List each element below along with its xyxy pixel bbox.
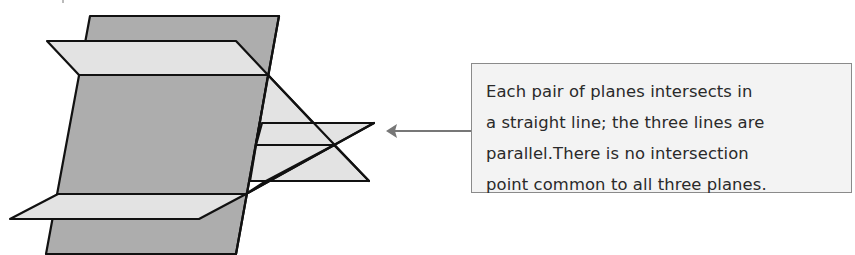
callout-line: parallel.There is no intersection (486, 138, 841, 169)
upper-horizontal-plane (47, 41, 268, 75)
callout-line: Each pair of planes intersects in (486, 76, 841, 107)
callout-line: a straight line; the three lines are (486, 107, 841, 138)
callout-box: Each pair of planes intersects in a stra… (471, 63, 852, 193)
callout-line: point common to all three planes. (486, 169, 841, 200)
